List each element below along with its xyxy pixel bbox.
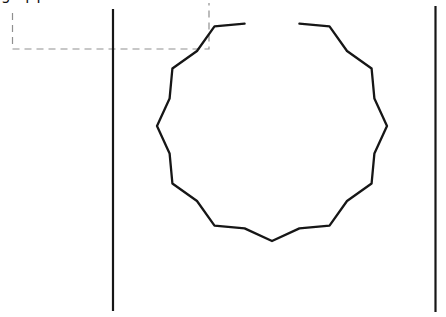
drawing-canvas[interactable]: gripper — [0, 0, 446, 317]
selection-rectangle[interactable] — [13, 3, 210, 49]
gear-outline — [157, 24, 387, 241]
line-drawing — [0, 0, 446, 317]
